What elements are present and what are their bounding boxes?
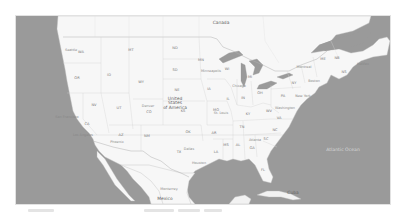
city-label: St. Louis — [214, 112, 228, 115]
state-label: AL — [236, 144, 240, 148]
state-label: NS — [342, 71, 347, 75]
state-label: VA — [277, 117, 282, 121]
city-label: Atlanta — [249, 139, 261, 142]
caption-text-segment — [144, 209, 174, 212]
state-label: SC — [264, 138, 269, 142]
state-label: NV — [91, 104, 96, 108]
state-label: AZ — [119, 134, 124, 138]
state-label: CA — [85, 123, 90, 127]
state-label: WI — [225, 68, 230, 72]
country-label-usa: United States of America — [163, 97, 187, 110]
city-label: Los Angeles — [73, 134, 93, 137]
city-label: Minneapolis — [201, 70, 221, 73]
city-label: Houston — [192, 162, 206, 165]
state-label: WA — [78, 51, 84, 55]
state-label: NM — [144, 135, 150, 139]
state-label: SD — [172, 69, 177, 73]
state-label: AR — [212, 132, 217, 136]
city-label: Boston — [308, 80, 320, 83]
state-label: OH — [257, 92, 263, 96]
caption-text-segment — [28, 209, 54, 212]
state-label: UT — [117, 107, 122, 111]
country-label-mexico: Mexico — [157, 197, 172, 201]
ocean-label: Atlantic Ocean — [326, 148, 360, 153]
state-label: NB — [334, 57, 339, 61]
state-label: CO — [146, 111, 151, 115]
city-label: Phoenix — [110, 141, 123, 144]
state-label: TX — [177, 151, 182, 155]
state-label: OR — [74, 77, 79, 81]
city-label: Seattle — [65, 49, 77, 52]
city-label: Halifax — [357, 63, 369, 66]
city-label: Monterrey — [160, 188, 177, 191]
state-label: LA — [214, 151, 219, 155]
city-label: Denver — [142, 105, 154, 108]
state-label: MI — [248, 76, 252, 80]
state-label: PA — [281, 95, 285, 99]
state-label: ME — [320, 58, 325, 62]
city-label: New York — [295, 95, 311, 98]
state-label: TN — [240, 126, 245, 130]
state-label: WV — [266, 110, 272, 114]
map-caption — [28, 208, 388, 216]
caption-text-segment — [204, 209, 222, 212]
city-label: Washington — [275, 107, 295, 110]
state-label: IA — [207, 88, 211, 92]
state-label: MS — [223, 144, 228, 148]
state-label: ID — [107, 74, 111, 78]
state-label: IN — [241, 97, 245, 101]
state-label: IL — [226, 98, 229, 102]
city-label: Montreal — [297, 66, 312, 69]
state-label: ND — [172, 47, 177, 51]
state-label: KY — [246, 113, 250, 117]
state-label: MT — [128, 49, 133, 53]
country-label-canada: Canada — [213, 21, 230, 25]
state-label: KS — [181, 110, 186, 114]
state-label: GA — [249, 147, 254, 151]
map-viewport[interactable]: WAORIDMTWYNVUTCAAZCONMNDSDNEKSOKTXMNIAMO… — [15, 15, 391, 205]
state-label: NY — [292, 82, 297, 86]
state-label: WY — [138, 81, 144, 85]
city-label: San Francisco — [55, 116, 78, 119]
state-label: MN — [198, 59, 204, 63]
city-label: Chicago — [232, 85, 246, 88]
map-canvas[interactable] — [16, 16, 390, 204]
city-label: Dallas — [184, 148, 194, 151]
state-label: NC — [272, 129, 277, 133]
state-label: OK — [185, 131, 190, 135]
state-label: NE — [175, 89, 180, 93]
state-label: FL — [261, 169, 265, 173]
country-label-cuba: Cuba — [287, 191, 298, 195]
caption-text-segment — [178, 209, 200, 212]
